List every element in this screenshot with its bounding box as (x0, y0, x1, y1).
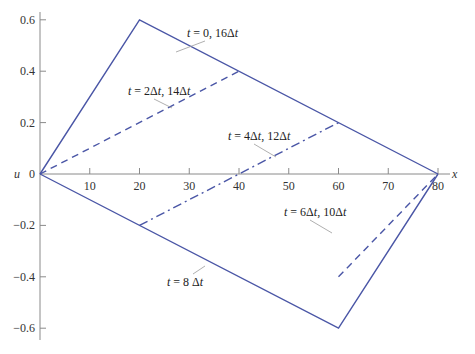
wave-chart: 1020304050607080 0.60.40.20−0.2−0.4−0.6 … (0, 0, 475, 354)
annotation-leader (193, 266, 205, 274)
y-tick-label: 0 (29, 167, 35, 181)
annotation-leader (310, 220, 332, 233)
x-tick-label: 20 (134, 179, 146, 193)
y-tick-label: 0.4 (20, 64, 35, 78)
annotation-label: t = 4Δt, 12Δt (228, 129, 291, 143)
annotation-leader (254, 144, 276, 157)
x-tick-label: 10 (84, 179, 96, 193)
x-tick-label: 40 (233, 179, 245, 193)
y-tick-label: −0.2 (13, 218, 35, 232)
x-tick-label: 30 (183, 179, 195, 193)
x-tick-label: 50 (283, 179, 295, 193)
annotation-label: t = 8 Δt (167, 275, 204, 289)
x-tick-label: 60 (333, 179, 345, 193)
annotation-label: t = 0, 16Δt (187, 26, 239, 40)
y-tick-label: −0.6 (13, 321, 35, 335)
series-line (40, 174, 438, 328)
x-axis-label: x (451, 167, 458, 181)
annotation-label: t = 6Δt, 10Δt (284, 205, 347, 219)
annotation-label: t = 2Δt, 14Δt (128, 84, 191, 98)
x-ticks: 1020304050607080 (84, 168, 444, 193)
series-line (40, 20, 438, 174)
annotation-leader (154, 99, 172, 108)
y-axis-label: u (14, 167, 20, 181)
y-tick-label: 0.2 (20, 116, 35, 130)
annotation-leader (176, 41, 205, 52)
y-tick-label: −0.4 (13, 270, 35, 284)
x-tick-label: 70 (382, 179, 394, 193)
annotations: t = 0, 16Δtt = 2Δt, 14Δtt = 4Δt, 12Δtt =… (128, 26, 347, 289)
y-tick-label: 0.6 (20, 13, 35, 27)
